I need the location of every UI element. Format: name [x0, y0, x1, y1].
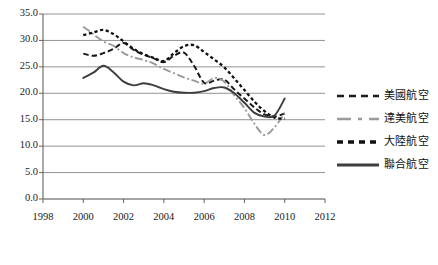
x-axis-tick-label: 2012 [305, 211, 345, 222]
legend-label: 聯合航空 [384, 159, 429, 170]
y-axis-tick-label: 35.0 [2, 7, 38, 18]
x-axis-tick-label: 2008 [224, 211, 264, 222]
legend-key-icon [336, 136, 380, 147]
series-line-0 [83, 43, 284, 117]
y-axis-tick-label: 15.0 [2, 113, 38, 124]
x-axis-tick-label: 2004 [144, 211, 184, 222]
legend-key-icon [336, 159, 380, 170]
series-line-2 [83, 30, 284, 119]
series-line-3 [83, 66, 284, 118]
x-axis-tick-label: 1998 [23, 211, 63, 222]
y-axis-tick-label: 30.0 [2, 33, 38, 44]
x-axis-tick-label: 2002 [104, 211, 144, 222]
legend-label: 達美航空 [384, 113, 429, 124]
y-axis-tick-label: 20.0 [2, 86, 38, 97]
legend-label: 大陸航空 [384, 136, 429, 147]
x-axis-tick-label: 2010 [265, 211, 305, 222]
y-axis-tick-label: 25.0 [2, 60, 38, 71]
legend-item-1[interactable]: 達美航空 [336, 107, 438, 130]
legend-item-3[interactable]: 聯合航空 [336, 153, 438, 176]
y-axis-tick-label: 10.0 [2, 139, 38, 150]
legend-item-2[interactable]: 大陸航空 [336, 130, 438, 153]
legend-item-0[interactable]: 美國航空 [336, 84, 438, 107]
y-axis-tick-label: 0.0 [2, 192, 38, 203]
x-axis-tick-label: 2000 [63, 211, 103, 222]
x-axis-tick-label: 2006 [184, 211, 224, 222]
legend-key-icon [336, 90, 380, 101]
y-axis-tick-label: 5.0 [2, 166, 38, 177]
chart-legend: 美國航空達美航空大陸航空聯合航空 [336, 84, 438, 176]
legend-key-icon [336, 113, 380, 124]
series-line-1 [83, 27, 284, 135]
line-chart: 美國航空達美航空大陸航空聯合航空 0.05.010.015.020.025.03… [0, 0, 438, 265]
legend-label: 美國航空 [384, 90, 429, 101]
